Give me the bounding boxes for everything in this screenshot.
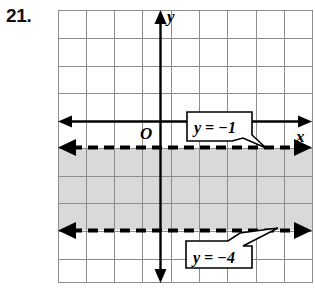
callout-y-neg-4-text: y = −4	[191, 249, 235, 267]
figure-container: 21.	[0, 0, 315, 293]
callout-y-neg-1-text: y = −1	[192, 119, 236, 137]
shaded-solution-region	[58, 148, 313, 230]
coordinate-graph: O y x y = −1 y = −4	[0, 0, 315, 293]
y-axis-label: y	[165, 7, 175, 26]
x-axis-label: x	[295, 127, 305, 146]
origin-label: O	[140, 124, 152, 143]
